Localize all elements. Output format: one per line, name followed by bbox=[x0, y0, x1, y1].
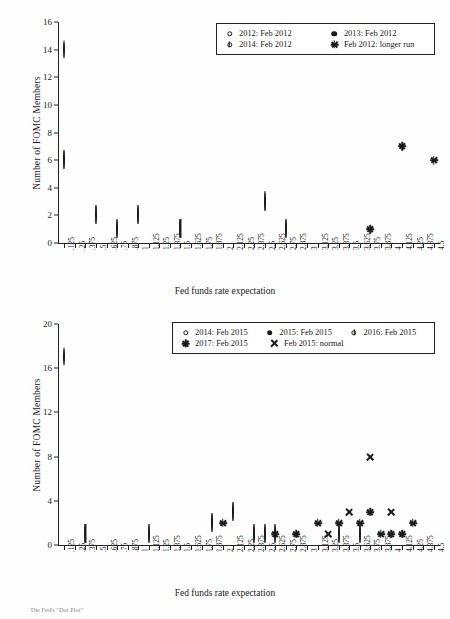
marker-barred-circle bbox=[264, 524, 266, 543]
marker-asterisk bbox=[330, 40, 339, 49]
y-axis-tick-label: 14 bbox=[30, 45, 52, 55]
x-axis-tick-mark bbox=[212, 244, 213, 248]
y-axis-tick-label: 4 bbox=[30, 496, 52, 506]
y-axis-tick-mark bbox=[54, 187, 58, 188]
x-axis-tick-mark bbox=[117, 244, 118, 248]
figure-caption: The Fed's "Dot Plot" bbox=[30, 606, 83, 613]
legend-marker bbox=[179, 327, 192, 338]
y-axis-line bbox=[58, 324, 59, 545]
y-axis-tick-mark bbox=[54, 49, 58, 50]
y-axis-tick-label: 16 bbox=[30, 363, 52, 373]
marker-barred-circle bbox=[227, 42, 232, 47]
data-point bbox=[359, 525, 361, 543]
x-axis-title: Fed funds rate expectation bbox=[0, 588, 450, 598]
marker-barred-circle bbox=[95, 205, 97, 224]
marker-barred-circle bbox=[351, 330, 356, 335]
legend-row: 2012: Feb 20122013: Feb 2012 bbox=[223, 28, 428, 39]
y-axis-tick-mark bbox=[54, 412, 58, 413]
x-axis-tick-mark bbox=[75, 244, 76, 248]
x-axis-tick-mark bbox=[296, 546, 297, 550]
y-axis-tick-label: 2 bbox=[30, 210, 52, 220]
x-axis-tick-mark bbox=[265, 546, 266, 550]
x-axis-tick-label: 4.5 bbox=[437, 241, 446, 250]
marker-barred-circle bbox=[84, 524, 86, 543]
x-axis-tick-mark bbox=[423, 244, 424, 248]
legend-marker bbox=[268, 338, 281, 349]
x-axis-tick-mark bbox=[328, 546, 329, 550]
x-axis-tick-mark bbox=[223, 546, 224, 550]
data-point bbox=[148, 525, 150, 543]
x-axis-tick-mark bbox=[191, 546, 192, 550]
y-axis-tick-label: 16 bbox=[30, 17, 52, 27]
marker-barred-circle bbox=[264, 192, 266, 211]
legend-item: 2016: Feb 2015 bbox=[348, 327, 428, 338]
marker-barred-circle bbox=[285, 219, 287, 238]
legend-label: 2012: Feb 2012 bbox=[239, 28, 292, 39]
y-axis-tick-mark bbox=[54, 456, 58, 457]
x-axis-tick-mark bbox=[360, 244, 361, 248]
x-axis-tick-mark bbox=[180, 244, 181, 248]
x-axis-tick-mark bbox=[370, 546, 371, 550]
marker-cross bbox=[271, 340, 279, 348]
x-axis-tick-mark bbox=[202, 244, 203, 248]
marker-filled-circle bbox=[267, 330, 273, 336]
legend-item: Feb 2012: longer run bbox=[328, 39, 428, 50]
x-axis-tick-mark bbox=[233, 546, 234, 550]
x-axis-tick-mark bbox=[180, 546, 181, 550]
marker-barred-circle bbox=[211, 513, 213, 532]
x-axis-tick-mark bbox=[381, 546, 382, 550]
y-axis-tick-mark bbox=[54, 160, 58, 161]
legend-item: Feb 2015: normal bbox=[268, 338, 357, 349]
x-axis-tick-mark bbox=[402, 546, 403, 550]
legend-marker bbox=[328, 28, 341, 39]
x-axis-tick-mark bbox=[128, 244, 129, 248]
x-axis-tick-mark bbox=[286, 546, 287, 550]
marker-open-circle bbox=[183, 330, 188, 335]
legend-row: 2014: Feb 20152015: Feb 20152016: Feb 20… bbox=[179, 327, 428, 338]
x-axis-tick-mark bbox=[328, 244, 329, 248]
legend-item: 2017: Feb 2015 bbox=[179, 338, 268, 349]
x-axis-tick-mark bbox=[159, 244, 160, 248]
y-axis-tick-label: 0 bbox=[30, 540, 52, 550]
dot-plot-page: 0246810121416Number of FOMC Members.125.… bbox=[0, 0, 450, 619]
chart-fomc-feb-2012: 0246810121416Number of FOMC Members.125.… bbox=[0, 0, 450, 300]
x-axis-tick-mark bbox=[233, 244, 234, 248]
marker-open-circle bbox=[63, 347, 65, 366]
legend-label: 2014: Feb 2015 bbox=[195, 327, 248, 338]
legend-label: 2016: Feb 2015 bbox=[364, 327, 417, 338]
legend-label: Feb 2015: normal bbox=[284, 338, 344, 349]
legend-marker bbox=[263, 327, 276, 338]
marker-barred-circle bbox=[232, 502, 234, 521]
x-axis-title: Fed funds rate expectation bbox=[0, 286, 450, 296]
legend-marker bbox=[223, 28, 236, 39]
chart-legend: 2014: Feb 20152015: Feb 20152016: Feb 20… bbox=[172, 322, 435, 354]
marker-asterisk bbox=[181, 339, 190, 348]
x-axis-tick-mark bbox=[434, 546, 435, 550]
legend-marker bbox=[179, 338, 192, 349]
y-axis-tick-mark bbox=[54, 545, 58, 546]
y-axis-tick-mark bbox=[54, 104, 58, 105]
legend-label: 2014: Feb 2012 bbox=[239, 39, 292, 50]
legend-marker bbox=[223, 39, 236, 50]
x-axis-tick-mark bbox=[423, 546, 424, 550]
marker-barred-circle bbox=[179, 219, 181, 238]
legend-row: 2017: Feb 2015Feb 2015: normal bbox=[179, 338, 428, 349]
x-axis-tick-mark bbox=[391, 546, 392, 550]
y-axis-tick-mark bbox=[54, 215, 58, 216]
x-axis-tick-mark bbox=[349, 244, 350, 248]
legend-label: 2013: Feb 2012 bbox=[344, 28, 397, 39]
x-axis-tick-mark bbox=[202, 546, 203, 550]
x-axis-tick-mark bbox=[434, 244, 435, 248]
marker-barred-circle bbox=[137, 205, 139, 224]
legend-item: 2014: Feb 2012 bbox=[223, 39, 328, 50]
x-axis-tick-mark bbox=[244, 546, 245, 550]
data-point bbox=[211, 514, 213, 532]
data-point bbox=[63, 151, 65, 169]
x-axis-tick-mark bbox=[96, 244, 97, 248]
x-axis-tick-mark bbox=[191, 244, 192, 248]
data-point bbox=[264, 525, 266, 543]
x-axis-tick-mark bbox=[107, 244, 108, 248]
data-point bbox=[95, 206, 97, 224]
marker-barred-circle bbox=[63, 150, 65, 169]
y-axis-tick-mark bbox=[54, 77, 58, 78]
